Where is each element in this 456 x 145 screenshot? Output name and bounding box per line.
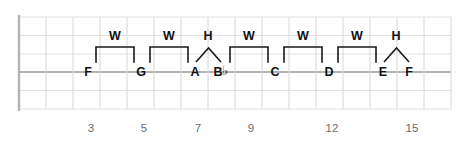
fret-number-label: 12 [326, 123, 339, 135]
whole-step-label: W [243, 30, 255, 43]
note-label: D [324, 66, 333, 79]
note-label: E [379, 66, 387, 79]
whole-step-label: W [351, 30, 363, 43]
note-label: G [136, 66, 146, 79]
note-label: C [270, 66, 279, 79]
fret-number-label: 3 [88, 123, 94, 135]
note-label: F [84, 66, 92, 79]
whole-step-label: W [163, 30, 175, 43]
whole-step-label: W [297, 30, 309, 43]
flat-accidental-icon: ♭ [222, 63, 228, 78]
whole-step-label: W [109, 30, 121, 43]
fret-number-label: 5 [141, 123, 147, 135]
note-label: F [405, 66, 413, 79]
fret-number-label: 7 [195, 123, 201, 135]
half-step-label: H [203, 30, 212, 43]
fret-number-label: 15 [406, 123, 419, 135]
fretboard-diagram: WWHWWWHFGAB♭CDEF35791215 [0, 0, 456, 145]
half-step-label: H [391, 30, 400, 43]
note-label: B♭ [213, 65, 228, 79]
fret-number-label: 9 [248, 123, 254, 135]
note-label: A [190, 66, 199, 79]
